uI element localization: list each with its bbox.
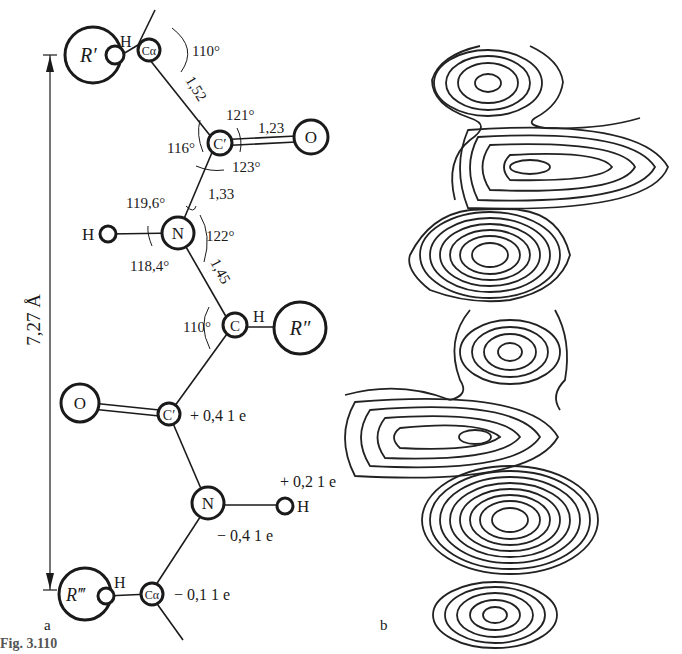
contour-peak-5 [345,389,558,478]
dimension-label: 7,27 Å [23,294,44,346]
charge-c-alpha: − 0,1 1 e [174,586,230,603]
r-double-prime-label: R″ [289,317,311,339]
bond-length-123: 1,23 [258,120,284,136]
dimension-line: 7,27 Å [23,55,57,590]
angle-123: 123° [232,159,261,175]
nitrogen-1-label: N [172,224,184,243]
angle-110-mid: 110° [183,319,211,335]
h-n2-label: H [297,497,309,516]
angle-118-4: 118,4° [130,258,169,274]
nitrogen-2-label: N [202,494,214,513]
charge-n: − 0,4 1 e [217,527,273,544]
c-alpha-top-label: Cα [142,44,157,58]
angle-122: 122° [206,228,235,244]
figure-caption: Fig. 3.110 [0,636,57,652]
angle-121: 121° [226,107,255,123]
bond-length-145: 1,45 [207,256,233,287]
contour-peak-2 [460,128,668,209]
r-prime-label: R′ [79,44,97,66]
oxygen-2-label: O [74,394,86,413]
r-triple-prime-label: R‴ [65,585,86,605]
c-prime-2-label: C′ [163,408,175,423]
h-atom-bottom-label: H [114,574,126,591]
panel-b-contour-map: b [345,46,668,648]
c-alpha-mid-label: C [230,318,240,334]
c-alpha-bottom-label: Cα [145,588,160,602]
bond-length-133: 1,33 [208,186,234,202]
charge-h: + 0,2 1 e [280,473,336,490]
h-atom-top-label: H [120,33,132,50]
panel-a-label: a [44,617,51,633]
contour-peak-1 [432,46,640,200]
angle-119-6: 119,6° [126,195,165,211]
contour-peak-3 [409,209,570,301]
c-prime-1-label: C′ [213,136,226,152]
contour-peak-4 [450,310,567,410]
contour-peak-7 [433,582,557,648]
angle-116: 116° [167,140,195,156]
angle-110-top: 110° [192,43,220,59]
h-mid-label: H [253,308,265,325]
contour-peak-6 [422,466,598,574]
panel-b-label: b [380,617,388,633]
charge-c-prime: + 0,4 1 e [190,407,246,424]
oxygen-1-label: O [305,128,317,147]
bond-length-152: 1,52 [182,73,209,104]
panel-a-structure: 7,27 Å R′ H [23,10,336,640]
h-n1-label: H [82,225,94,244]
